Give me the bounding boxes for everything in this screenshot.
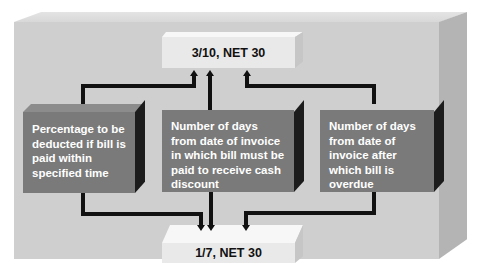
- bottom-term-label: 1/7, NET 30: [195, 246, 262, 260]
- panel-top-bevel: [14, 12, 467, 22]
- connector-right-down-horizontal: [244, 211, 375, 215]
- arrow-down-icon: [197, 225, 205, 231]
- bottom-term-box: 1/7, NET 30: [162, 243, 295, 263]
- left-desc-side: [135, 100, 145, 193]
- arrow-up-icon: [243, 70, 251, 76]
- connector-right-up-horizontal: [245, 84, 375, 88]
- middle-desc-side: [294, 100, 304, 192]
- connector-left-down-riser: [199, 212, 203, 226]
- desc-box-percentage: Percentage to be deducted if bill is pai…: [23, 112, 135, 193]
- top-term-box: 3/10, NET 30: [162, 37, 295, 68]
- connector-left-up-horizontal: [81, 84, 195, 88]
- connector-right-up-vertical: [372, 84, 376, 104]
- connector-middle-up: [208, 75, 212, 110]
- connector-left-down-horizontal: [81, 212, 203, 216]
- top-term-label: 3/10, NET 30: [192, 46, 266, 60]
- connector-left-up-riser: [192, 75, 196, 88]
- arrow-up-icon: [190, 70, 198, 76]
- desc-overdue-days-text: Number of days from date of invoice afte…: [329, 120, 416, 190]
- desc-box-discount-days: Number of days from date of invoice in w…: [162, 110, 294, 192]
- connector-middle-down: [209, 192, 213, 226]
- connector-right-down-vertical: [372, 192, 376, 215]
- arrow-down-icon: [242, 225, 250, 231]
- arrow-down-icon: [207, 225, 215, 231]
- desc-discount-days-text: Number of days from date of invoice in w…: [171, 120, 284, 190]
- arrow-up-icon: [206, 70, 214, 76]
- left-desc-bevel: [23, 104, 145, 112]
- desc-box-overdue-days: Number of days from date of invoice afte…: [320, 110, 434, 192]
- bottom-term-bevel: [162, 225, 303, 243]
- desc-percentage-text: Percentage to be deducted if bill is pai…: [32, 123, 126, 179]
- right-desc-side: [434, 100, 444, 192]
